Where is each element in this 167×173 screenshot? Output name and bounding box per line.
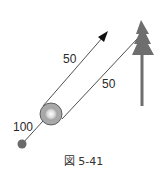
tree-distance-label: 50 — [102, 77, 116, 91]
arrow-distance-label: 50 — [63, 52, 77, 66]
diagram-canvas: 50 50 100 図 5-41 — [0, 0, 167, 173]
arrow-icon — [43, 31, 108, 106]
dot-distance-label: 100 — [13, 120, 33, 134]
tree-icon — [132, 20, 154, 106]
tree-line — [62, 39, 137, 119]
dot-icon — [18, 140, 27, 149]
figure-caption: 図 5-41 — [64, 155, 103, 168]
ball-icon — [40, 103, 62, 125]
